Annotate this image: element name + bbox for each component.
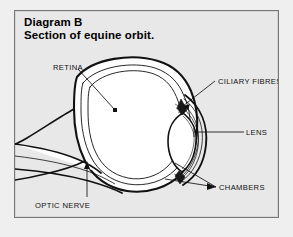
label-lens: LENS (246, 128, 267, 137)
label-optic-nerve: OPTIC NERVE (35, 201, 90, 210)
sclera-nerve-junction-upper (15, 109, 74, 144)
vitreous-chamber-outline (88, 71, 182, 179)
label-ciliary-fibres: CILIARY FIBRES (218, 77, 279, 86)
retina-leader-marker (113, 108, 117, 112)
label-chambers: CHAMBERS (219, 183, 265, 192)
screenshot-root: Diagram B Section of equine orbit. (0, 0, 293, 237)
label-retina: RETINA (53, 63, 83, 72)
diagram-panel: Diagram B Section of equine orbit. (14, 10, 279, 218)
